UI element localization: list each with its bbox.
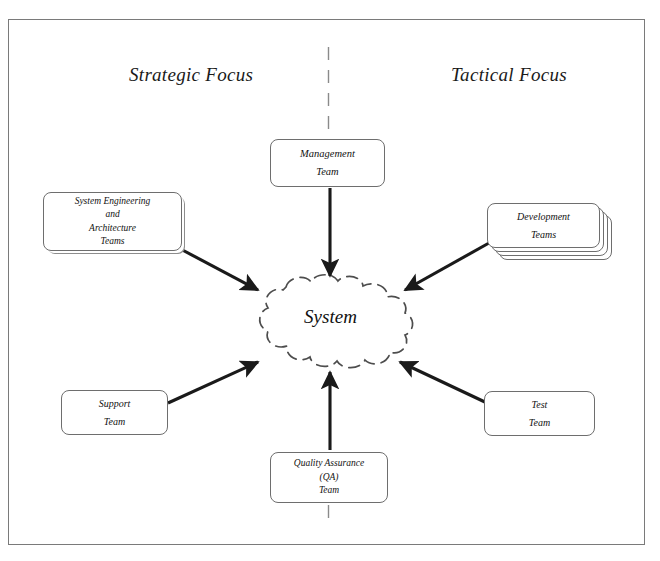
- node-label-line: Quality Assurance: [294, 457, 364, 470]
- node-label-line: Teams: [531, 226, 556, 244]
- node-label-line: Management: [300, 145, 355, 163]
- heading-tactical-focus: Tactical Focus: [451, 64, 567, 86]
- node-label-line: System Engineering: [75, 195, 151, 208]
- diagram-canvas: Strategic Focus Tactical Focus Managemen…: [0, 0, 660, 561]
- node-label-line: Team: [316, 163, 338, 181]
- node-test-team[interactable]: Test Team: [484, 391, 595, 436]
- node-label-line: Team: [319, 484, 339, 497]
- heading-strategic-focus: Strategic Focus: [129, 64, 253, 86]
- node-label-line: Architecture: [89, 222, 136, 235]
- node-development-teams-stack[interactable]: Development Teams: [487, 203, 614, 260]
- node-label-line: Development: [517, 208, 570, 226]
- node-label-line: Test: [532, 396, 548, 414]
- node-label-line: Team: [104, 413, 125, 431]
- node-label-line: and: [105, 208, 119, 221]
- node-support-team[interactable]: Support Team: [61, 390, 168, 435]
- node-quality-assurance-team[interactable]: Quality Assurance (QA) Team: [270, 452, 388, 503]
- node-system-label: System: [248, 306, 413, 328]
- node-label-line: (QA): [320, 471, 339, 484]
- node-label-line: Support: [99, 395, 131, 413]
- node-development-teams[interactable]: Development Teams: [487, 203, 600, 248]
- node-label-line: Teams: [101, 235, 125, 248]
- node-management-team[interactable]: Management Team: [270, 139, 385, 187]
- node-label-line: Team: [529, 414, 550, 432]
- node-system-engineering-architecture-teams[interactable]: System Engineering and Architecture Team…: [43, 192, 182, 251]
